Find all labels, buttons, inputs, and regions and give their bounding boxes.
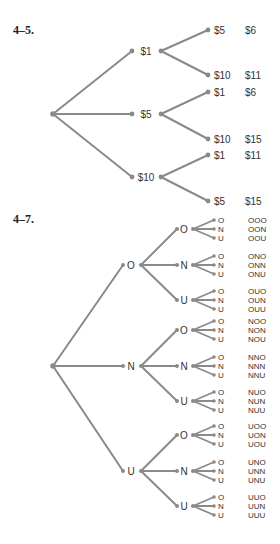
tree-edge — [193, 229, 214, 238]
outcome-label: UNN — [248, 467, 266, 476]
leaf-label: N — [218, 225, 224, 234]
tree-edge — [193, 291, 214, 300]
outcome-label: OUO — [248, 287, 266, 296]
tree-edge — [141, 229, 177, 265]
leaf-label: U — [218, 371, 224, 380]
tree-edge — [141, 366, 177, 401]
tree-node-dot — [175, 263, 179, 267]
leaf-label: O — [218, 252, 224, 261]
tree-edge — [141, 265, 177, 300]
tree-edge — [141, 471, 177, 506]
tree-node-dot — [121, 263, 125, 267]
level2-label: O — [180, 325, 188, 336]
tree-node-dot — [212, 254, 216, 258]
tree-edge — [193, 392, 214, 401]
leaf-label: O — [218, 422, 224, 431]
level1-label: U — [127, 466, 134, 477]
leaf-label: U — [218, 440, 224, 449]
outcome-label: UNU — [248, 476, 266, 485]
leaf-label: N — [218, 397, 224, 406]
outcome-label: ONN — [248, 261, 266, 270]
tree-node-dot — [175, 504, 179, 508]
outcome-label: UOU — [248, 440, 266, 449]
leaf-label: O — [218, 458, 224, 467]
tree-node-dot — [212, 390, 216, 394]
tree-node-dot — [212, 218, 216, 222]
tree-edge — [193, 300, 214, 309]
tree-edge — [141, 330, 177, 366]
tree-node-dot — [212, 442, 216, 446]
outcome-label: NOU — [248, 335, 266, 344]
tree-node-dot — [121, 469, 125, 473]
tree-edge — [193, 265, 214, 274]
tree-edge — [141, 435, 177, 471]
leaf-label: N — [218, 362, 224, 371]
leaf-label: O — [218, 317, 224, 326]
tree-edge — [193, 506, 214, 515]
tree-diagram-4-7: OOOOOONOONUOOUNOONONONNUONUUOOUONOUNUOUU… — [0, 0, 280, 544]
level1-label: N — [127, 361, 134, 372]
tree-edge — [193, 401, 214, 410]
tree-node-dot — [212, 319, 216, 323]
outcome-label: NUN — [248, 397, 266, 406]
leaf-label: N — [218, 326, 224, 335]
tree-edge — [193, 220, 214, 229]
tree-node-dot — [212, 433, 216, 437]
outcome-label: UNO — [248, 458, 266, 467]
level2-label: O — [180, 430, 188, 441]
leaf-label: O — [218, 493, 224, 502]
leaf-label: U — [218, 234, 224, 243]
tree-node-dot — [212, 307, 216, 311]
tree-node-dot — [212, 408, 216, 412]
tree-node-dot — [212, 504, 216, 508]
outcome-label: OUN — [248, 296, 266, 305]
outcome-label: OON — [248, 225, 266, 234]
leaf-label: O — [218, 287, 224, 296]
outcome-label: OOO — [248, 216, 267, 225]
outcome-label: UUU — [248, 511, 266, 520]
level2-label: U — [180, 295, 187, 306]
tree-edge — [193, 462, 214, 471]
leaf-label: N — [218, 467, 224, 476]
tree-edge — [193, 321, 214, 330]
tree-node-dot — [212, 328, 216, 332]
outcome-label: ONO — [248, 252, 266, 261]
outcome-label: OUU — [248, 305, 266, 314]
level2-label: U — [180, 396, 187, 407]
leaf-label: O — [218, 388, 224, 397]
level1-label: O — [127, 260, 135, 271]
tree-node-dot — [212, 364, 216, 368]
tree-node-dot — [175, 364, 179, 368]
leaf-label: N — [218, 431, 224, 440]
tree-node-dot — [175, 399, 179, 403]
tree-node-dot — [212, 478, 216, 482]
leaf-label: U — [218, 270, 224, 279]
tree-node-dot — [212, 289, 216, 293]
leaf-label: N — [218, 296, 224, 305]
outcome-label: NUU — [248, 406, 266, 415]
leaf-label: U — [218, 305, 224, 314]
leaf-label: U — [218, 406, 224, 415]
tree-edge — [193, 497, 214, 506]
tree-node-dot — [175, 328, 179, 332]
tree-node-dot — [212, 469, 216, 473]
level2-label: U — [180, 501, 187, 512]
tree-node-dot — [175, 433, 179, 437]
tree-node-dot — [175, 227, 179, 231]
tree-node-dot — [212, 263, 216, 267]
tree-edge — [53, 265, 123, 366]
tree-node-dot — [212, 424, 216, 428]
outcome-label: NUO — [248, 388, 266, 397]
tree-edge — [193, 330, 214, 339]
tree-edge — [193, 366, 214, 375]
level2-label: N — [180, 466, 187, 477]
level2-label: O — [180, 224, 188, 235]
tree-node-dot — [212, 399, 216, 403]
tree-node-dot — [212, 272, 216, 276]
tree-node-dot — [212, 236, 216, 240]
tree-edge — [193, 256, 214, 265]
tree-node-dot — [212, 355, 216, 359]
leaf-label: N — [218, 502, 224, 511]
outcome-label: NON — [248, 326, 266, 335]
tree-node-dot — [175, 298, 179, 302]
